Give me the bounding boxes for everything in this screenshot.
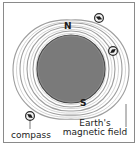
magnetic-field-figure: N S compass Earth's magnetic field xyxy=(0,0,140,147)
north-pole-label: N xyxy=(64,22,72,31)
compass-right xyxy=(109,47,118,56)
earth-magnetic-field-label: Earth's magnetic field xyxy=(58,119,132,137)
earth-sphere xyxy=(37,35,105,103)
earth-field-label-line2: magnetic field xyxy=(58,128,132,137)
south-pole-label: S xyxy=(80,99,86,108)
compass-top-right xyxy=(95,14,104,23)
compass-bottom-left xyxy=(26,112,35,121)
compass-label: compass xyxy=(11,131,51,140)
